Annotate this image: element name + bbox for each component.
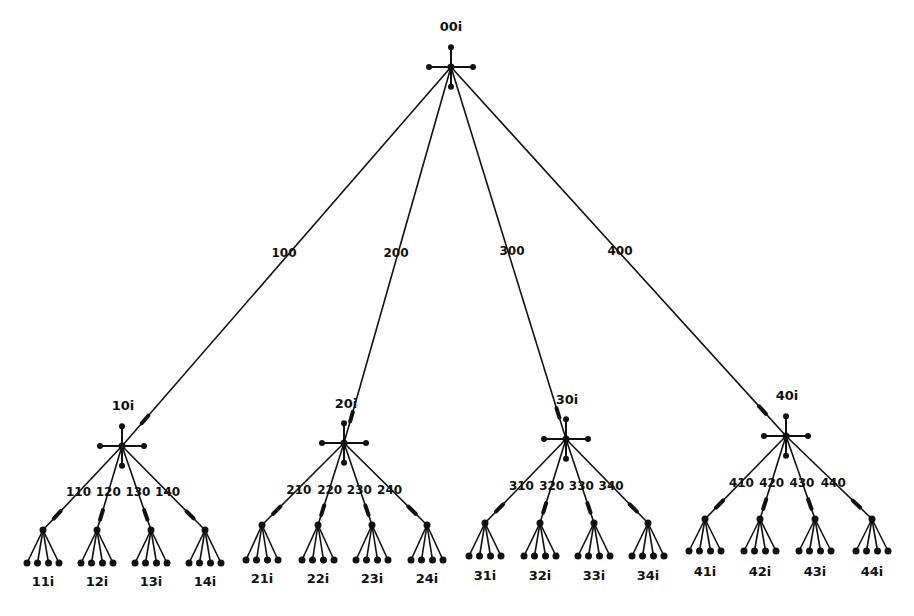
- node-32i-leaf-3: [542, 553, 549, 560]
- node-22i-leaf-4: [331, 557, 338, 564]
- node-42i-label: 42i: [749, 564, 772, 579]
- edge-310-label: 310: [509, 479, 534, 493]
- edge-220-arrow: [321, 505, 324, 515]
- node-13i-leaf-3: [153, 560, 160, 567]
- node-23i-leaf-1: [353, 557, 360, 564]
- node-11i-leaf-3: [45, 560, 52, 567]
- node-11i-hub-dot: [40, 527, 47, 534]
- node-41i-leaf-4: [718, 548, 725, 555]
- node-24i-leaf-2: [418, 557, 425, 564]
- edge-440-label: 440: [821, 476, 846, 490]
- node-30i-label: 30i: [556, 392, 579, 407]
- node-32i-leaf-2: [531, 553, 538, 560]
- node-32i-hub-dot: [537, 520, 544, 527]
- node-34i-label: 34i: [637, 568, 660, 583]
- node-10i-center-dot: [119, 443, 126, 450]
- node-40i-dot-top: [783, 413, 789, 419]
- node-43i-label: 43i: [804, 564, 827, 579]
- node-31i-hub-dot: [482, 520, 489, 527]
- node-42i-leaf-1: [741, 548, 748, 555]
- edge-120-arrow: [100, 510, 103, 520]
- edge-330-arrow: [587, 503, 590, 512]
- edge-240-arrow: [409, 507, 416, 514]
- edge-440-arrow: [853, 501, 860, 508]
- node-41i-leaf-2: [696, 548, 703, 555]
- edge-140-arrow: [187, 511, 194, 518]
- root-node-dot-right: [470, 64, 476, 70]
- edge-410-arrow: [716, 500, 723, 507]
- node-11i-label: 11i: [32, 574, 55, 589]
- root-node-dot-bottom: [448, 84, 454, 90]
- node-42i-hub-dot: [757, 516, 764, 523]
- labels-layer: 00i10i10011011i12012i13013i14014i20i2002…: [32, 19, 884, 589]
- node-20i-label: 20i: [335, 396, 358, 411]
- node-12i-leaf-4: [110, 560, 117, 567]
- edge-430-arrow: [808, 499, 811, 508]
- node-41i-hub-dot: [702, 516, 709, 523]
- node-41i-leaf-3: [707, 548, 714, 555]
- node-40i-dot-left: [761, 433, 767, 439]
- node-11i-leaf-4: [56, 560, 63, 567]
- node-23i-leaf-4: [385, 557, 392, 564]
- edge-130-label: 130: [125, 485, 150, 499]
- node-42i-leaf-3: [762, 548, 769, 555]
- node-33i-hub-dot: [591, 520, 598, 527]
- node-21i-leaf-2: [253, 557, 260, 564]
- node-30i-dot-right: [585, 436, 591, 442]
- edge-200-arrow: [350, 412, 353, 422]
- node-22i-label: 22i: [307, 571, 330, 586]
- node-14i-label: 14i: [194, 574, 217, 589]
- node-13i-label: 13i: [140, 574, 163, 589]
- edge-340-label: 340: [599, 479, 624, 493]
- edge-320-label: 320: [539, 479, 564, 493]
- node-34i-hub-dot: [645, 520, 652, 527]
- edge-110-arrow: [54, 511, 61, 518]
- edge-400-arrow: [759, 406, 766, 413]
- node-40i-dot-bottom: [783, 453, 789, 459]
- edge-210-arrow: [273, 507, 280, 514]
- edge-130-arrow: [144, 510, 147, 519]
- node-33i-label: 33i: [583, 568, 606, 583]
- node-43i-hub-dot: [812, 516, 819, 523]
- node-41i-label: 41i: [694, 564, 717, 579]
- node-23i-label: 23i: [361, 571, 384, 586]
- edge-240-label: 240: [377, 483, 402, 497]
- node-10i-label: 10i: [112, 398, 135, 413]
- node-12i-leaf-1: [78, 560, 85, 567]
- edge-420-label: 420: [759, 476, 784, 490]
- root-node-dot-left: [426, 64, 432, 70]
- node-24i-label: 24i: [416, 571, 439, 586]
- edge-200-label: 200: [383, 246, 408, 260]
- edge-310-arrow: [496, 504, 503, 511]
- node-44i-leaf-3: [874, 548, 881, 555]
- node-34i-leaf-3: [650, 553, 657, 560]
- node-33i-leaf-3: [596, 553, 603, 560]
- edge-300-arrow: [556, 408, 559, 418]
- node-41i-leaf-1: [686, 548, 693, 555]
- node-12i-label: 12i: [86, 574, 109, 589]
- node-43i-leaf-3: [817, 548, 824, 555]
- node-43i-leaf-1: [796, 548, 803, 555]
- root-node-center-dot: [448, 64, 455, 71]
- node-14i-leaf-3: [207, 560, 214, 567]
- edge-230-label: 230: [347, 483, 372, 497]
- node-22i-leaf-2: [309, 557, 316, 564]
- node-34i-leaf-2: [639, 553, 646, 560]
- node-14i-leaf-2: [196, 560, 203, 567]
- edge-120-label: 120: [96, 485, 121, 499]
- node-43i-leaf-2: [806, 548, 813, 555]
- node-32i-leaf-4: [553, 553, 560, 560]
- node-30i-dot-top: [563, 416, 569, 422]
- node-12i-leaf-3: [99, 560, 106, 567]
- node-42i-leaf-4: [773, 548, 780, 555]
- node-12i-hub-dot: [94, 527, 101, 534]
- node-23i-leaf-3: [374, 557, 381, 564]
- node-33i-leaf-1: [575, 553, 582, 560]
- node-20i-dot-left: [319, 440, 325, 446]
- node-13i-leaf-1: [132, 560, 139, 567]
- edge-110-label: 110: [66, 485, 91, 499]
- node-33i-leaf-2: [585, 553, 592, 560]
- node-10i-dot-top: [119, 423, 125, 429]
- node-13i-leaf-4: [164, 560, 171, 567]
- node-44i-leaf-4: [885, 548, 892, 555]
